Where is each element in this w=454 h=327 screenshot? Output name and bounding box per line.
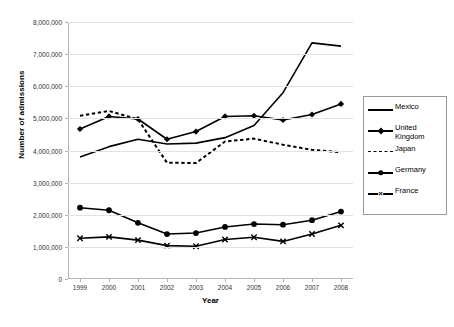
data-point-marker [193, 230, 199, 236]
x-tick-mark [167, 279, 168, 282]
x-tick-mark [283, 279, 284, 282]
x-tick-label: 2005 [247, 284, 261, 291]
gridline [68, 118, 353, 119]
series-line [80, 104, 341, 139]
y-tick-mark [65, 151, 68, 152]
series-mexico [80, 43, 341, 157]
y-tick-label: 2,000,000 [33, 211, 62, 218]
x-tick-label: 2003 [189, 284, 203, 291]
legend-swatch [367, 104, 394, 115]
x-tick-label: 2004 [218, 284, 232, 291]
series-line [80, 208, 341, 234]
legend-label: Germany [394, 166, 426, 175]
legend-label: Mexico [394, 103, 419, 112]
legend-swatch [367, 146, 394, 157]
gridline [68, 183, 353, 184]
x-tick-label: 2000 [102, 284, 116, 291]
series-france [77, 223, 343, 249]
x-tick-label: 2002 [160, 284, 174, 291]
x-tick-mark [138, 279, 139, 282]
legend-item-france[interactable]: ×France [367, 187, 443, 201]
gridline [68, 22, 353, 23]
y-tick-label: 8,000,000 [33, 19, 62, 26]
x-tick-label: 2006 [276, 284, 290, 291]
legend-swatch [367, 125, 394, 136]
legend-line [368, 109, 393, 111]
data-point-marker [338, 101, 344, 107]
legend-item-germany[interactable]: Germany [367, 166, 443, 180]
gridline [68, 54, 353, 55]
y-tick-label: 4,000,000 [33, 147, 62, 154]
y-axis-title: Number of admissions [17, 50, 26, 180]
data-point-marker [135, 220, 141, 226]
legend-label: France [394, 187, 418, 196]
data-point-marker [309, 217, 315, 223]
series-line [80, 43, 341, 157]
x-tick-label: 2001 [131, 284, 145, 291]
data-point-marker [164, 231, 170, 237]
line-chart-figure: Number of admissions 01,000,0002,000,000… [0, 0, 454, 327]
x-tick-mark [254, 279, 255, 282]
y-tick-mark [65, 279, 68, 280]
x-tick-mark [196, 279, 197, 282]
y-tick-mark [65, 86, 68, 87]
y-tick-mark [65, 215, 68, 216]
x-tick-mark [341, 279, 342, 282]
legend-swatch [367, 167, 394, 178]
plot-area: 01,000,0002,000,0003,000,0004,000,0005,0… [68, 22, 353, 279]
chart-legend: MexicoUnited KingdomJapanGermany×France [363, 96, 447, 215]
series-united-kingdom [77, 101, 344, 143]
legend-item-united-kingdom[interactable]: United Kingdom [367, 124, 443, 138]
y-tick-mark [65, 22, 68, 23]
y-tick-mark [65, 183, 68, 184]
gridline [68, 151, 353, 152]
x-axis-title: Year [68, 296, 353, 305]
data-point-marker [251, 221, 257, 227]
legend-item-japan[interactable]: Japan [367, 145, 443, 159]
x-tick-mark [225, 279, 226, 282]
series-line [80, 225, 341, 246]
legend-label: United Kingdom [394, 124, 443, 141]
diamond-marker-icon [377, 127, 384, 134]
y-tick-label: 1,000,000 [33, 243, 62, 250]
x-tick-label: 1999 [73, 284, 87, 291]
gridline [68, 215, 353, 216]
x-tick-mark [109, 279, 110, 282]
x-tick-mark [80, 279, 81, 282]
x-tick-label: 2007 [305, 284, 319, 291]
data-point-marker [309, 111, 315, 117]
circle-marker-icon [378, 170, 384, 176]
y-tick-label: 3,000,000 [33, 179, 62, 186]
data-point-marker [280, 222, 286, 228]
data-point-marker [77, 126, 83, 132]
y-tick-label: 7,000,000 [33, 51, 62, 58]
legend-line [368, 151, 393, 152]
legend-item-mexico[interactable]: Mexico [367, 103, 443, 117]
series-germany [77, 205, 344, 237]
legend-label: Japan [394, 145, 415, 154]
legend-swatch: × [367, 188, 394, 199]
data-point-marker [222, 224, 228, 230]
data-point-marker [338, 209, 344, 215]
x-axis-line [68, 278, 353, 279]
x-tick-mark [312, 279, 313, 282]
data-point-marker [77, 205, 83, 211]
data-point-marker [193, 128, 199, 134]
y-tick-label: 5,000,000 [33, 115, 62, 122]
gridline [68, 86, 353, 87]
x-marker-icon: × [378, 190, 384, 198]
data-point-marker [106, 207, 112, 213]
gridline [68, 247, 353, 248]
y-tick-mark [65, 247, 68, 248]
x-tick-label: 2008 [334, 284, 348, 291]
y-tick-label: 6,000,000 [33, 83, 62, 90]
y-tick-mark [65, 54, 68, 55]
y-tick-label: 0 [58, 276, 62, 283]
y-tick-mark [65, 118, 68, 119]
